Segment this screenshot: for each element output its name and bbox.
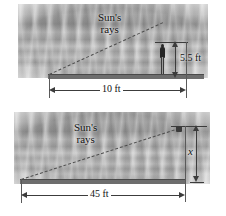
height-dimension-line-bottom (196, 129, 197, 178)
person-silhouette (160, 44, 165, 74)
sun-rays-label-bottom: Sun's rays (74, 122, 97, 145)
base-label-top: 10 ft (100, 84, 123, 95)
base-arrow-right-top (180, 87, 186, 93)
height-dimension-line-top (175, 45, 176, 74)
base-arrow-right-bottom (179, 192, 185, 198)
panel-bottom: x 45 ft Sun's rays (0, 106, 226, 216)
sun-rays-label-top-line1: Sun's (98, 11, 121, 23)
vertical-extension-bottom (185, 126, 186, 202)
shadow-tip-extension-bottom (21, 179, 22, 203)
shadow-similar-triangles-figure: 5.5 ft 10 ft Sun's rays x (0, 0, 226, 216)
base-arrow-left-top (49, 87, 55, 93)
height-arrow-up-bottom (193, 125, 199, 131)
height-label-top: 5.5 ft (180, 53, 201, 64)
base-arrow-left-bottom (21, 192, 27, 198)
object-top-tick (171, 126, 207, 127)
sun-rays-label-top-line2: rays (98, 24, 121, 36)
landscape-photo-bottom (14, 112, 210, 184)
ground-line-top (48, 74, 204, 79)
height-base-tick-bottom (190, 182, 204, 183)
sun-rays-label-top: Sun's rays (98, 12, 121, 35)
sun-rays-label-bottom-line2: rays (74, 134, 97, 146)
person-legs-icon (161, 57, 164, 74)
shadow-tip-extension-top (49, 74, 50, 98)
vertical-extension-top (186, 42, 187, 98)
height-label-bottom: x (188, 146, 193, 158)
base-label-bottom: 45 ft (88, 189, 111, 200)
height-arrow-up-top (172, 41, 178, 47)
panel-top: 5.5 ft 10 ft Sun's rays (0, 0, 226, 106)
sun-rays-label-bottom-line1: Sun's (74, 121, 97, 133)
height-arrow-down-top (172, 72, 178, 78)
ground-line-bottom (20, 179, 185, 184)
